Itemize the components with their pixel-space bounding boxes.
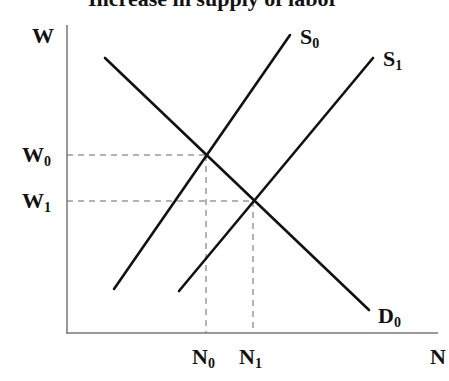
n1-label: N1 (239, 346, 262, 371)
demand-curve-d0 (105, 58, 369, 310)
n0-label: N0 (192, 346, 215, 371)
w1-label: W1 (22, 190, 51, 215)
s0-label: S0 (300, 26, 319, 51)
chart-title-cutoff: Increase in supply of labor (88, 0, 338, 12)
d0-label: D0 (378, 305, 401, 330)
supply-curve-s0 (114, 35, 290, 289)
y-axis-label: W (32, 25, 54, 47)
s1-label: S1 (383, 48, 402, 73)
supply-curve-s1 (179, 58, 373, 291)
x-axis-label: N (430, 346, 446, 368)
w0-label: W0 (22, 144, 51, 169)
